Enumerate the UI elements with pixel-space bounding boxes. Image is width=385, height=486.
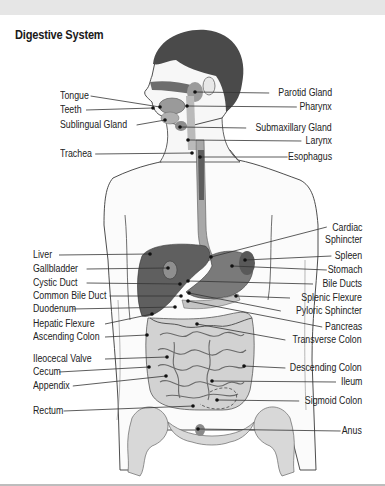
sublingual-gland-leader-line	[137, 120, 165, 125]
anus-point-marker	[196, 427, 200, 431]
pharynx-point-marker	[185, 104, 189, 108]
hepatic-flexure-point-marker	[150, 312, 154, 316]
liver-point-marker	[148, 252, 152, 256]
ascending-colon-leader-line	[105, 335, 147, 337]
label-common-bile-duct: Common Bile Duct	[33, 290, 106, 301]
label-liver: Liver	[33, 249, 52, 260]
label-appendix: Appendix	[33, 380, 70, 391]
appendix-point-marker	[164, 374, 168, 378]
label-parotid-gland: Parotid Gland	[278, 87, 332, 98]
sigmoid-colon-point-marker	[215, 398, 219, 402]
label-ileum: Ileum	[340, 376, 362, 387]
descending-colon-leader-line	[244, 366, 285, 368]
label-teeth: Teeth	[60, 104, 82, 115]
cardiac-leader-line	[211, 227, 327, 257]
ileocecal-valve-point-marker	[165, 355, 169, 359]
pyloric-sphincter-point-marker	[187, 291, 191, 295]
appendix-leader-line	[73, 376, 166, 386]
gallbladder-point-marker	[166, 266, 170, 270]
sublingual-gland-point-marker	[163, 118, 167, 122]
teeth-leader-line	[86, 108, 153, 110]
rectum-point-marker	[191, 404, 195, 408]
label-larynx: Larynx	[306, 135, 332, 146]
pharynx-leader-line	[187, 106, 297, 107]
label-rectum: Rectum	[33, 405, 63, 416]
cystic-duct-leader-line	[87, 283, 180, 284]
label-cardiac: Cardiac	[332, 222, 362, 233]
duodenum-leader-line	[73, 307, 175, 309]
cardiac-point-marker	[209, 255, 213, 259]
label-transverse-colon: Transverse Colon	[293, 334, 362, 345]
label-anus: Anus	[342, 425, 362, 436]
label-pancreas: Pancreas	[325, 321, 362, 332]
hepatic-flexure-leader-line	[105, 314, 152, 324]
label-duodenum: Duodenum	[33, 303, 76, 314]
label-ileocecal-valve: Ileocecal Valve	[33, 353, 92, 364]
label-sublingual-gland: Sublingual Gland	[60, 119, 127, 130]
label-sigmoid-colon: Sigmoid Colon	[305, 395, 362, 406]
trachea-point-marker	[190, 151, 194, 155]
label-cecum: Cecum	[33, 366, 61, 377]
submaxillary-gland-leader-line	[180, 127, 246, 128]
bile-ducts-point-marker	[186, 279, 190, 283]
label-stomach: Stomach	[327, 264, 362, 275]
teeth-point-marker	[151, 106, 155, 110]
label-tongue: Tongue	[60, 90, 89, 101]
label-pharynx: Pharynx	[300, 101, 332, 112]
label-cystic-duct: Cystic Duct	[33, 277, 77, 288]
trachea-leader-line	[95, 153, 192, 154]
label-ascending-colon: Ascending Colon	[33, 331, 100, 342]
label-descending-colon: Descending Colon	[290, 362, 362, 373]
gallbladder-leader-line	[87, 268, 168, 269]
stomach-leader-line	[232, 266, 327, 270]
descending-colon-point-marker	[242, 364, 246, 368]
rectum-leader-line	[64, 406, 193, 411]
label-bile-ducts: Bile Ducts	[322, 278, 362, 289]
esophagus-point-marker	[198, 155, 202, 159]
liver-leader-line	[59, 254, 150, 255]
splenic-flexure-leader-line	[236, 296, 290, 298]
label-trachea: Trachea	[60, 148, 92, 159]
spleen-leader-line	[245, 256, 331, 260]
larynx-point-marker	[186, 138, 190, 142]
sigmoid-colon-leader-line	[217, 400, 299, 401]
larynx-leader-line	[188, 140, 301, 141]
transverse-colon-leader-line	[197, 324, 285, 340]
cecum-leader-line	[59, 367, 149, 372]
cecum-point-marker	[147, 365, 151, 369]
tongue-leader-line	[91, 96, 160, 107]
label-spleen: Spleen	[335, 250, 362, 261]
parotid-gland-leader-line	[195, 92, 269, 93]
duodenum-point-marker	[173, 305, 177, 309]
label-submaxillary-gland: Submaxillary Gland	[256, 122, 332, 133]
splenic-flexure-point-marker	[234, 294, 238, 298]
label-sphincter: Sphincter	[325, 234, 362, 245]
bile-ducts-leader-line	[188, 281, 313, 284]
spleen-point-marker	[243, 258, 247, 262]
ileum-point-marker	[210, 379, 214, 383]
submaxillary-gland-point-marker	[178, 125, 182, 129]
ileocecal-valve-leader-line	[105, 357, 167, 359]
label-esophagus: Esophagus	[288, 151, 332, 162]
parotid-gland-point-marker	[193, 90, 197, 94]
label-pyloric-sphincter: Pyloric Sphincter	[296, 305, 362, 316]
cystic-duct-point-marker	[178, 282, 182, 286]
label-hepatic-flexure: Hepatic Flexure	[33, 318, 95, 329]
anus-leader-line	[198, 429, 341, 431]
common-bile-duct-point-marker	[179, 294, 183, 298]
ileum-leader-line	[212, 381, 336, 382]
label-gallbladder: Gallbladder	[33, 263, 78, 274]
label-splenic-flexure: Splenic Flexure	[301, 292, 362, 303]
tongue-point-marker	[158, 105, 162, 109]
pancreas-point-marker	[186, 299, 190, 303]
stomach-point-marker	[230, 264, 234, 268]
transverse-colon-point-marker	[195, 322, 199, 326]
ascending-colon-point-marker	[145, 333, 149, 337]
